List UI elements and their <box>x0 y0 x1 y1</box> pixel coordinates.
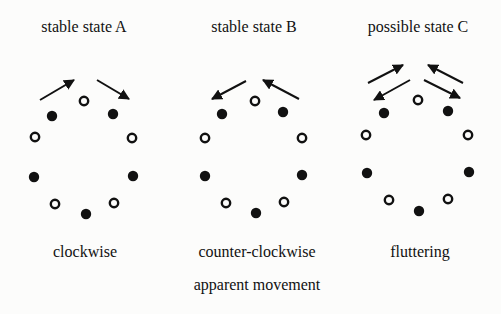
open-dot <box>110 199 118 207</box>
open-dot <box>362 131 370 139</box>
open-dot <box>298 134 306 142</box>
filled-dot <box>362 168 372 178</box>
motion-arrow-icon <box>40 80 74 100</box>
open-dot <box>222 199 230 207</box>
motion-arrow-icon <box>424 80 460 98</box>
open-dot <box>128 134 136 142</box>
apparent-movement-diagram: stable state A stable state B possible s… <box>0 0 501 314</box>
motion-arrow-icon <box>97 80 129 99</box>
open-dot <box>80 97 88 105</box>
filled-dot <box>81 209 91 219</box>
panel-a-title: stable state A <box>41 19 126 35</box>
open-dot <box>385 196 393 204</box>
panel-a <box>29 80 138 219</box>
filled-dot <box>251 208 261 218</box>
panel-b-label: counter-clockwise <box>199 244 316 260</box>
motion-arrow-icon <box>263 80 299 99</box>
open-dot <box>201 134 209 142</box>
motion-arrow-icon <box>368 65 403 83</box>
open-dot <box>280 198 288 206</box>
open-dot <box>251 97 259 105</box>
open-dot <box>31 133 39 141</box>
filled-dot <box>217 109 227 119</box>
diagram-caption: apparent movement <box>194 277 321 293</box>
filled-dot <box>29 172 39 182</box>
filled-dot <box>108 109 118 119</box>
motion-arrow-icon <box>212 81 246 99</box>
filled-dot <box>297 170 307 180</box>
filled-dot <box>443 106 453 116</box>
filled-dot <box>414 206 424 216</box>
panel-c-title: possible state C <box>368 19 468 35</box>
open-dot <box>464 131 472 139</box>
filled-dot <box>464 167 474 177</box>
filled-dot <box>200 171 210 181</box>
open-dot <box>444 195 452 203</box>
motion-arrow-icon <box>428 65 463 83</box>
filled-dot <box>47 111 57 121</box>
panel-c-label: fluttering <box>390 244 450 260</box>
panel-a-label: clockwise <box>53 244 117 260</box>
open-dot <box>51 200 59 208</box>
panel-b-title: stable state B <box>211 19 296 35</box>
filled-dot <box>128 171 138 181</box>
filled-dot <box>379 108 389 118</box>
open-dot <box>414 96 422 104</box>
motion-arrow-icon <box>374 80 410 100</box>
panel-b <box>200 80 307 218</box>
diagram-canvas <box>0 0 501 314</box>
filled-dot <box>278 107 288 117</box>
panel-c <box>362 65 474 216</box>
